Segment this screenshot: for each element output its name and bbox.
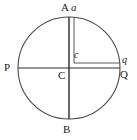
point-label-c: c (74, 50, 78, 60)
point-label-a: a (71, 2, 77, 13)
point-label-A: A (61, 2, 69, 13)
point-label-C: C (58, 70, 65, 81)
point-label-q: q (122, 55, 127, 65)
geometry-figure: A a P Q q C B c (0, 0, 137, 140)
point-label-B: B (63, 124, 70, 135)
point-label-P: P (4, 62, 10, 73)
point-label-Q: Q (120, 69, 128, 80)
figure-canvas (0, 0, 137, 140)
